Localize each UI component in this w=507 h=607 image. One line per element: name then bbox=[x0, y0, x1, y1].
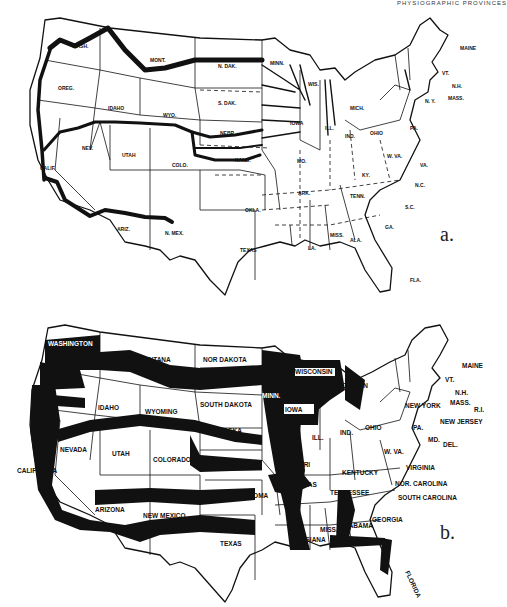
us-map-b: WASHINGTON OREGON IDAHO MONTANA NOR DAKO… bbox=[0, 310, 507, 607]
label-ala: ALABAMA bbox=[340, 522, 373, 529]
label-sc: SOUTH CAROLINA bbox=[398, 494, 457, 501]
label-mich: MICH. bbox=[350, 105, 365, 111]
label-ariz: ARIZ. bbox=[117, 226, 131, 232]
label-nh: N.H. bbox=[455, 389, 468, 396]
band-upper-miss bbox=[262, 350, 310, 550]
label-va: VA. bbox=[420, 162, 429, 168]
label-ala: ALA. bbox=[350, 237, 362, 243]
label-ky: KENTUCKY bbox=[342, 469, 379, 476]
label-okla: OKLA. bbox=[245, 207, 261, 213]
label-pa: PA. bbox=[413, 424, 424, 431]
label-ore: OREG. bbox=[58, 85, 75, 91]
label-calif: CALIF. bbox=[40, 165, 56, 171]
label-ill: ILL. bbox=[312, 434, 324, 441]
label-sdak: S. DAK. bbox=[218, 100, 237, 106]
label-colo: COLORADO bbox=[153, 456, 191, 463]
label-iowa: IOWA bbox=[285, 406, 303, 413]
label-fla: FLA. bbox=[410, 277, 422, 283]
label-va: VIRGINIA bbox=[406, 464, 435, 471]
label-tenn: TENN. bbox=[350, 193, 366, 199]
panel-label-b: b. bbox=[440, 521, 455, 544]
label-md: MD. bbox=[428, 436, 440, 443]
label-wva: W. VA. bbox=[384, 448, 404, 455]
label-wash: WASH. bbox=[72, 43, 89, 49]
us-map-a: WASH. OREG. IDAHO MONT. N. DAK. S. DAK. … bbox=[0, 10, 507, 300]
label-ndak: N. DAK. bbox=[218, 63, 237, 69]
label-minn: MINN. bbox=[262, 392, 281, 399]
label-iowa: IOWA bbox=[290, 120, 304, 126]
label-texas: TEXAS bbox=[240, 247, 257, 253]
label-mo: MISSOURI bbox=[278, 461, 310, 468]
label-mo: MO. bbox=[297, 158, 307, 164]
label-utah: UTAH bbox=[112, 450, 130, 457]
label-ky: KY. bbox=[362, 172, 370, 178]
label-vt: VT. bbox=[442, 70, 450, 76]
label-ind: IND. bbox=[345, 133, 356, 139]
label-miss: MISS. bbox=[320, 526, 338, 533]
label-ohio: OHIO bbox=[365, 424, 382, 431]
label-nebr: NEBR. bbox=[220, 130, 236, 136]
label-mass: MASS. bbox=[450, 399, 471, 406]
label-nj: NEW JERSEY bbox=[440, 418, 483, 425]
label-wyo: WYOMING bbox=[145, 408, 178, 415]
label-idaho: IDAHO bbox=[108, 105, 124, 111]
label-wash: WASHINGTON bbox=[48, 340, 93, 347]
label-ark: ARK. bbox=[298, 190, 311, 196]
label-mont: MONTANA bbox=[138, 356, 171, 363]
label-nmex: N. MEX. bbox=[165, 230, 184, 236]
label-ny: NEW YORK bbox=[405, 402, 441, 409]
label-maine: MAINE bbox=[462, 362, 484, 369]
label-nev: NEVADA bbox=[60, 446, 87, 453]
label-nev: NEV. bbox=[82, 145, 94, 151]
label-mont: MONT. bbox=[150, 57, 166, 63]
label-wyo: WYO. bbox=[163, 112, 177, 118]
map-panel-b: WASHINGTON OREGON IDAHO MONTANA NOR DAKO… bbox=[0, 310, 507, 607]
label-wis: WIS. bbox=[308, 81, 319, 87]
label-ga: GA. bbox=[385, 224, 395, 230]
label-nc: NOR. CAROLINA bbox=[395, 480, 448, 487]
label-colo: COLO. bbox=[172, 162, 188, 168]
label-ind: IND. bbox=[340, 429, 353, 436]
label-ndak: NOR DAKOTA bbox=[203, 356, 247, 363]
label-fla: FLORIDA bbox=[404, 569, 423, 598]
label-ny: N. Y. bbox=[425, 98, 436, 104]
label-nh: N.H. bbox=[452, 83, 463, 89]
label-maine: MAINE bbox=[460, 45, 477, 51]
label-idaho: IDAHO bbox=[98, 404, 119, 411]
running-head: PHYSIOGRAPHIC PROVINCES bbox=[367, 0, 507, 6]
label-la: LOUISIANA bbox=[290, 536, 326, 543]
label-okla: OKLAHOMA bbox=[230, 492, 269, 499]
label-kans: KANS. bbox=[235, 157, 251, 163]
label-ri: R.I. bbox=[474, 406, 484, 413]
label-mass: MASS. bbox=[448, 95, 464, 101]
label-ark: ARKANSAS bbox=[280, 481, 318, 488]
label-texas: TEXAS bbox=[220, 540, 242, 547]
label-ariz: ARIZONA bbox=[95, 506, 125, 513]
label-nebr: NEBRASKA bbox=[205, 427, 242, 434]
panel-label-a: a. bbox=[440, 223, 454, 246]
label-ill: ILL. bbox=[325, 125, 334, 131]
label-sc: S.C. bbox=[405, 204, 415, 210]
label-wva: W. VA. bbox=[387, 153, 403, 159]
label-ga: GEORGIA bbox=[372, 516, 403, 523]
label-kans: KANSAS bbox=[222, 461, 250, 468]
label-pa: PA. bbox=[410, 125, 419, 131]
label-vt: VT. bbox=[445, 376, 455, 383]
label-la: LA. bbox=[308, 245, 317, 251]
map-panel-a: WASH. OREG. IDAHO MONT. N. DAK. S. DAK. … bbox=[0, 10, 507, 300]
label-nmex: NEW MEXICO bbox=[143, 512, 186, 519]
label-sdak: SOUTH DAKOTA bbox=[200, 401, 252, 408]
label-nc: N.C. bbox=[415, 182, 426, 188]
label-mich: MICHIGAN bbox=[335, 382, 368, 389]
label-ohio: OHIO bbox=[370, 130, 383, 136]
label-del: DEL. bbox=[443, 441, 458, 448]
label-utah: UTAH bbox=[122, 152, 136, 158]
label-calif: CALIFORNIA bbox=[17, 467, 57, 474]
label-wis: WISCONSIN bbox=[295, 368, 333, 375]
label-minn: MINN. bbox=[270, 60, 285, 66]
label-ore: OREGON bbox=[45, 396, 74, 403]
label-tenn: TENNESSEE bbox=[330, 489, 370, 496]
label-miss: MISS. bbox=[330, 232, 344, 238]
